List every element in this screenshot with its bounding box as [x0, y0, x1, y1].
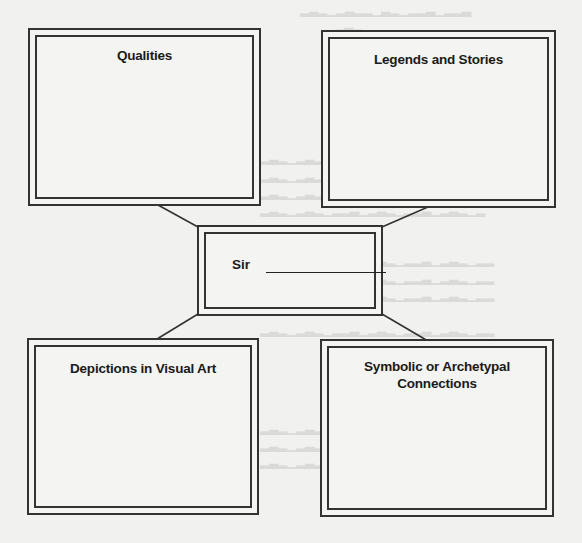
symbolic-or-archetypal-connections-title: Symbolic or Archetypal Connections — [362, 358, 512, 392]
center-box-inner-frame — [204, 232, 376, 309]
qualities-box[interactable]: Qualities — [28, 28, 261, 206]
qualities-title: Qualities — [30, 47, 259, 64]
connector-depictions — [157, 314, 198, 339]
depictions-in-visual-art-box[interactable]: Depictions in Visual Art — [27, 338, 259, 515]
center-name-blank-line[interactable] — [266, 272, 386, 273]
legends-and-stories-box[interactable]: Legends and Stories — [321, 30, 556, 208]
legends-and-stories-title: Legends and Stories — [323, 51, 554, 68]
center-topic-box[interactable]: Sir — [197, 225, 383, 316]
center-label-sir: Sir — [232, 257, 250, 272]
connector-qualities — [158, 205, 198, 227]
connector-symbolic — [382, 314, 428, 341]
symbolic-or-archetypal-connections-box[interactable]: Symbolic or Archetypal Connections — [320, 339, 554, 517]
connector-legends — [382, 207, 428, 227]
depictions-in-visual-art-title: Depictions in Visual Art — [29, 360, 257, 377]
